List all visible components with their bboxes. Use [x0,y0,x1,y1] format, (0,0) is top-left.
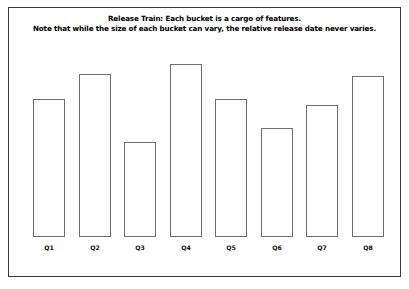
bar-q5 [215,99,247,237]
x-label-q5: Q5 [211,244,251,251]
chart-title-block: Release Train: Each bucket is a cargo of… [8,14,401,33]
x-label-q6: Q6 [257,244,297,251]
bar-q3 [124,142,156,237]
x-label-q2: Q2 [75,244,115,251]
x-label-q1: Q1 [29,244,69,251]
bar-q2 [79,74,111,237]
bar-q4 [170,64,202,237]
x-label-q8: Q8 [348,244,388,251]
bar-q7 [306,105,338,237]
bar-q1 [33,99,65,237]
x-label-q4: Q4 [166,244,206,251]
bar-chart-plot-area [8,40,401,237]
chart-title-line-1: Release Train: Each bucket is a cargo of… [8,14,401,24]
x-axis-labels: Q1Q2Q3Q4Q5Q6Q7Q8 [8,244,401,258]
chart-subtitle-line-2: Note that while the size of each bucket … [8,24,401,34]
release-train-figure: Release Train: Each bucket is a cargo of… [0,0,409,289]
bar-q6 [261,128,293,237]
bar-q8 [352,76,384,237]
x-label-q7: Q7 [302,244,342,251]
x-label-q3: Q3 [120,244,160,251]
